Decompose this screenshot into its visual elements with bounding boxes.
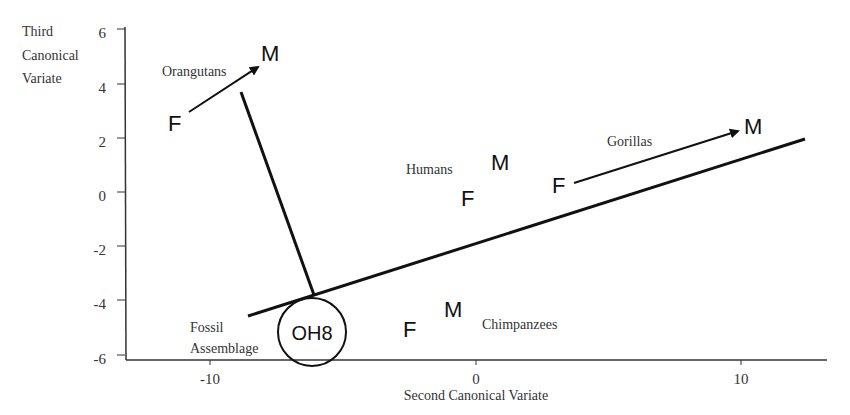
oh8-label: OH8 [291, 322, 332, 344]
y-axis-label-line2: Canonical [22, 48, 79, 63]
orangutans-female-marker: F [168, 111, 181, 136]
y-tick-label: -2 [94, 242, 107, 258]
y-tick-label: 6 [99, 25, 107, 41]
humans-male-marker: M [491, 150, 509, 175]
chimpanzees-female-marker: F [403, 317, 416, 342]
trend-line [248, 139, 805, 316]
x-axis-label: Second Canonical Variate [404, 388, 548, 403]
fossil-label-line1: Fossil [190, 320, 224, 335]
fossil-label-line2: Assemblage [190, 341, 258, 356]
humans-label: Humans [406, 162, 453, 177]
y-axis-line [125, 27, 126, 360]
y-tick-label: 4 [99, 80, 107, 96]
gorillas-female-marker: F [552, 173, 565, 198]
chimpanzees-male-marker: M [444, 297, 462, 322]
humans-female-marker: F [461, 186, 474, 211]
y-tick-label: -6 [94, 351, 107, 367]
gorillas-arrow [574, 131, 738, 183]
gorillas-male-marker: M [744, 114, 762, 139]
y-axis-label-line1: Third [22, 24, 53, 39]
y-tick-label: 0 [99, 188, 107, 204]
x-ticks: -10 0 10 [200, 360, 749, 387]
y-tick-label: 2 [99, 134, 107, 150]
y-tick-label: -4 [94, 296, 107, 312]
y-axis-label-line3: Variate [22, 71, 62, 86]
chart-canvas: Third Canonical Variate 6 4 2 0 -2 -4 -6… [0, 0, 850, 415]
y-ticks: 6 4 2 0 -2 -4 -6 [94, 25, 126, 367]
orangutans-male-marker: M [261, 41, 279, 66]
x-tick-label: -10 [200, 371, 220, 387]
x-tick-label: 10 [734, 371, 749, 387]
orangutans-label: Orangutans [162, 64, 227, 79]
perpendicular-line [241, 92, 314, 295]
chimpanzees-label: Chimpanzees [482, 317, 557, 332]
gorillas-label: Gorillas [607, 134, 652, 149]
x-tick-label: 0 [472, 371, 480, 387]
